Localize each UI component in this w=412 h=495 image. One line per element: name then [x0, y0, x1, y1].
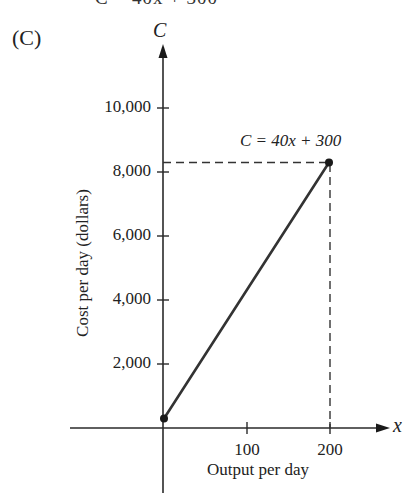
chart-canvas — [0, 0, 412, 495]
equation-text: C = 40x + 300 — [240, 131, 341, 150]
y-tick-label: 10,000 — [71, 97, 151, 117]
x-tick-label: 100 — [222, 440, 272, 460]
cost-line — [164, 163, 329, 419]
equation-annotation: C = 40x + 300 — [240, 131, 341, 151]
y-axis-arrow-icon — [159, 44, 168, 58]
y-axis-variable-label: C — [153, 19, 166, 42]
x-axis-arrow-icon — [376, 424, 390, 433]
start-point-marker — [160, 415, 168, 423]
x-axis-title: Output per day — [178, 460, 338, 480]
end-point-marker — [325, 159, 333, 167]
y-axis-title: Cost per day (dollars) — [73, 163, 93, 363]
x-axis-variable-label: x — [393, 414, 402, 437]
x-tick-label: 200 — [305, 440, 355, 460]
